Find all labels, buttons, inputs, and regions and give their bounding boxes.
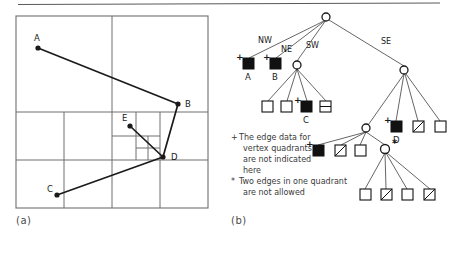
tree-edge-root-se: [329, 20, 404, 66]
tree-edge-se-c2: [396, 74, 404, 121]
tree-edge-se1d-c2: [385, 153, 386, 189]
tree-node-root: [322, 13, 330, 21]
tree-edge-se1d-c4: [387, 153, 430, 189]
tree-node-sw: [293, 61, 301, 69]
tree-leaf-se1d-3-empty: [402, 189, 413, 200]
tree-leaf-nw-A: [243, 58, 254, 69]
tree-leaf-se1-2-diagonal: [335, 145, 346, 156]
vertex-label-C: C: [47, 184, 53, 194]
legend-1-marker: *: [231, 177, 235, 186]
legend-1-line-0: Two edges in one quadrant: [238, 177, 347, 186]
vertex-label-A: A: [34, 33, 40, 43]
legend-0-line-3: here: [243, 166, 261, 175]
tree-leaf-se-2-D: [391, 121, 402, 132]
legend-0-marker: +: [231, 133, 238, 142]
tree-leaf-label-C: C: [303, 115, 309, 125]
tree-edge-se1-c4: [366, 132, 385, 145]
tree-edge-se1-c2: [341, 132, 366, 145]
edge-E-D: [130, 126, 163, 157]
tree-leaf-label-D: D: [393, 135, 400, 145]
edge-D-C: [57, 157, 163, 195]
vertex-label-E: E: [122, 113, 127, 123]
tree-leaf-se1-1-E: [313, 145, 324, 156]
tree-edge-se1-c1: [318, 132, 366, 145]
polygon-vertices: [35, 45, 180, 197]
tree-leaf-se1d-2-diagonal: [381, 189, 392, 200]
tree-leaf-sw-2-empty: [281, 101, 292, 112]
tree-leaf-se-4-empty: [435, 121, 446, 132]
direction-label-sw: SW: [306, 41, 319, 50]
marker-plus-C: +: [294, 95, 302, 105]
panel-b: NW NE SW SE * + A + B + C: [231, 13, 446, 226]
tree-node-se: [400, 66, 408, 74]
direction-label-nw: NW: [258, 36, 272, 45]
legend-1-line-1: are not allowed: [243, 188, 305, 197]
vertex-A-dot: [35, 45, 40, 50]
tree-node-se-1: [362, 124, 370, 132]
tree-leaf-se1-3-empty: [355, 145, 366, 156]
tree-leaf-sw-3-C: [301, 101, 312, 112]
tree-edge-se1d-c3: [386, 153, 407, 189]
vertex-label-B: B: [185, 99, 191, 109]
vertex-C-dot: [54, 192, 59, 197]
figure-root: A B C D E (a): [0, 0, 454, 254]
tree-leaf-sw-4-half: [320, 101, 331, 112]
marker-plus-A: +: [236, 52, 244, 62]
panel-a-caption: (a): [16, 215, 31, 226]
legend-block: + The edge data for vertex quadrants are…: [231, 133, 347, 197]
marker-plus-D: +: [384, 115, 392, 125]
tree-node-se-1-4: [381, 145, 390, 154]
legend-0-line-1: vertex quadrants: [243, 144, 312, 153]
panel-b-caption: (b): [231, 215, 247, 226]
tree-leaf-sw-1-empty: [262, 101, 273, 112]
vertex-label-D: D: [171, 152, 178, 162]
edge-A-B: [38, 48, 178, 104]
tree-leaf-label-A: A: [245, 72, 251, 82]
vertex-B-dot: [175, 101, 180, 106]
direction-label-se: SE: [381, 37, 391, 46]
panel-a: A B C D E (a): [16, 16, 208, 226]
top-rule: [18, 3, 440, 5]
figure-canvas: A B C D E (a): [0, 0, 454, 254]
direction-label-ne: NE: [281, 45, 292, 54]
legend-0-line-2: are not indicated: [243, 155, 311, 164]
vertex-D-dot: [160, 154, 165, 159]
tree-leaf-ne-B: [270, 58, 281, 69]
marker-plus-B: +: [263, 52, 271, 62]
tree-leaf-label-B: B: [272, 72, 278, 82]
tree-leaf-se1d-1-empty: [360, 189, 371, 200]
tree-leaf-se-3-diagonal: [413, 121, 424, 132]
tree-edge-se1d-c1: [365, 153, 385, 189]
vertex-E-dot: [127, 123, 132, 128]
tree-leaf-se1d-4-diagonal: [424, 189, 435, 200]
polygon-edges: [38, 48, 178, 195]
legend-0-line-0: The edge data for: [238, 133, 311, 142]
